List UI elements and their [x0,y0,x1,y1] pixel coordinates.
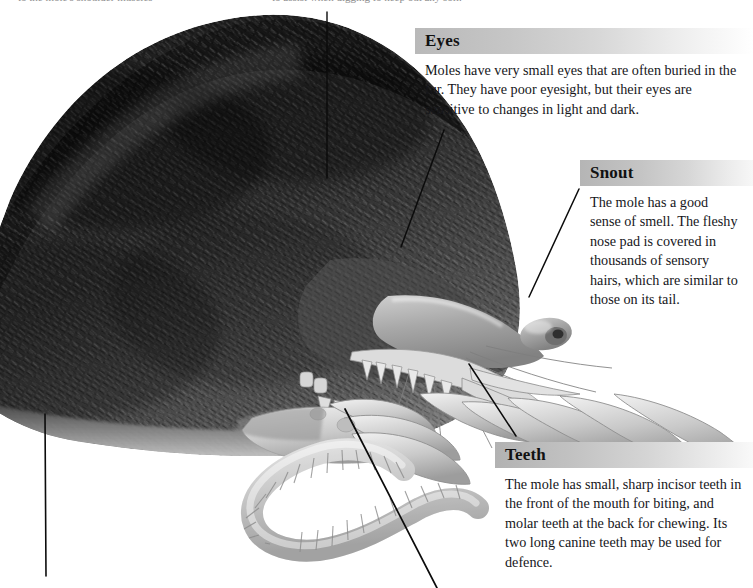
callout-teeth-title: Teeth [505,445,546,465]
callout-snout-title: Snout [590,163,634,183]
callout-snout-body: The mole has a good sense of smell. The … [580,186,742,309]
callout-snout: Snout The mole has a good sense of smell… [580,160,753,309]
callout-eyes-body: Moles have very small eyes that are ofte… [415,54,745,119]
callout-snout-header: Snout [580,160,753,186]
top-caption-left-fragment: to the mole's shoulder muscles [18,0,153,3]
callout-teeth: Teeth The mole has small, sharp incisor … [495,442,753,572]
callout-eyes-title: Eyes [425,31,460,51]
callout-eyes-header: Eyes [415,28,753,54]
top-caption-strip: to the mole's shoulder muscles to assist… [0,0,753,3]
callout-teeth-body: The mole has small, sharp incisor teeth … [495,468,745,572]
callout-snout-text: The mole has a good sense of smell. The … [590,193,742,309]
top-caption-right-fragment: to assist when digging to keep out any s… [272,0,462,3]
callout-teeth-text: The mole has small, sharp incisor teeth … [505,475,745,572]
callout-eyes: Eyes Moles have very small eyes that are… [415,28,753,119]
mole-anatomy-page: to the mole's shoulder muscles to assist… [0,0,753,588]
callout-eyes-text: Moles have very small eyes that are ofte… [425,61,745,119]
callout-teeth-header: Teeth [495,442,753,468]
